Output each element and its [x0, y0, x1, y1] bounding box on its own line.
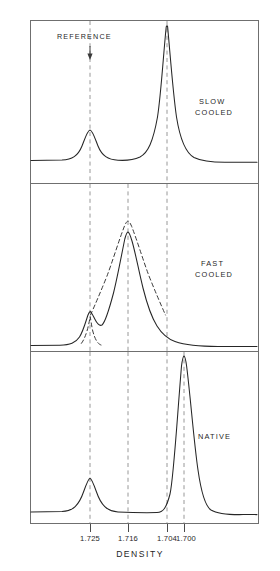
tick-label-1716: 1.716 — [118, 534, 138, 543]
tick-label-1725: 1.725 — [80, 534, 100, 543]
figure-canvas: REFERENCE SLOW COOLED FAST COOLED — [0, 0, 280, 571]
trace-slow-cooled — [31, 26, 257, 163]
panel-label-native: NATIVE — [198, 432, 231, 441]
panel-label-slow-cooled-line1: SLOW — [199, 97, 225, 106]
panel-slow-cooled: REFERENCE SLOW COOLED — [30, 21, 258, 184]
reference-arrow-head — [87, 54, 92, 61]
reference-annotation: REFERENCE — [57, 32, 112, 60]
tick-label-1700: 1.700 — [176, 534, 196, 543]
tick-label-1704: 1.704 — [157, 534, 177, 543]
panel-fast-cooled: FAST COOLED — [30, 184, 258, 352]
trace-fast-cooled — [31, 232, 257, 346]
panel-label-fast-cooled-line2: COOLED — [195, 270, 233, 279]
panel-label-fast-cooled-line1: FAST — [201, 259, 224, 268]
panel-native: NATIVE — [30, 352, 258, 524]
density-gradient-figure: REFERENCE SLOW COOLED FAST COOLED — [0, 0, 280, 571]
density-axis: 1.725 1.716 1.704 1.700 DENSITY — [30, 524, 258, 560]
reference-label: REFERENCE — [57, 32, 112, 41]
trace-fast-cooled-resolved-components — [80, 221, 166, 345]
axis-title-density: DENSITY — [116, 549, 164, 559]
panel-label-slow-cooled-line2: COOLED — [195, 108, 233, 117]
